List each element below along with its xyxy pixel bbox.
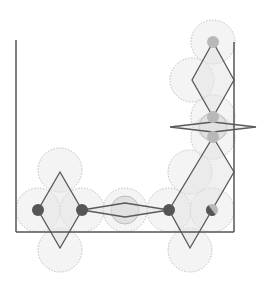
right-lens [170, 122, 256, 132]
node-lower [207, 131, 219, 143]
node-mid-right [163, 204, 175, 216]
node-upper [207, 111, 219, 123]
diagram-svg [0, 0, 267, 288]
node-mid-left [76, 204, 88, 216]
circle-layer [16, 20, 235, 272]
diagram-canvas [0, 0, 267, 288]
node-top [207, 36, 219, 48]
node-left [32, 204, 44, 216]
